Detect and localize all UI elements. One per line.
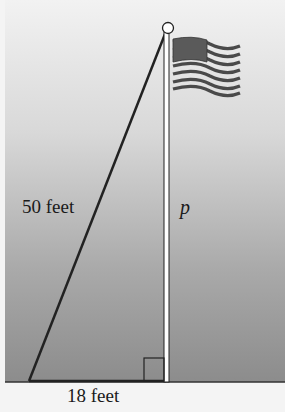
base-label: 18 feet [67,385,119,407]
hypotenuse-label: 50 feet [22,196,74,218]
background-panel [5,0,285,382]
pole-height-label: p [180,196,190,219]
flag-pole [164,32,169,382]
flagpole-diagram: 50 feet p 18 feet [0,0,285,412]
pole-top-ball-icon [163,23,174,34]
